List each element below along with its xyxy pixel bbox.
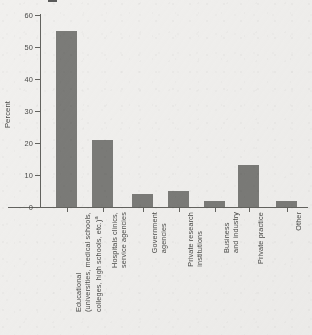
x-axis-tick [249, 207, 250, 212]
x-axis-tick [287, 207, 288, 212]
bar [132, 194, 153, 207]
x-axis-line [8, 207, 308, 208]
y-axis-tick [35, 175, 40, 176]
x-axis-label: Governmentagencies [151, 212, 168, 253]
x-axis-label: Private researchinstitutions [187, 212, 204, 267]
x-axis-label-line: Other [295, 212, 304, 231]
x-axis-tick [67, 207, 68, 212]
y-axis-tick-label: 60 [25, 11, 33, 20]
y-axis-tick-label: 20 [25, 139, 33, 148]
y-axis-tick-label: 0 [29, 203, 33, 212]
y-axis-tick-label: 30 [25, 107, 33, 116]
x-axis-tick [179, 207, 180, 212]
y-axis-title: Percent [3, 101, 12, 128]
y-axis-tick [35, 15, 40, 16]
x-axis-label-line: (universities, medical schools, [84, 212, 93, 312]
x-axis-label: Private practice [257, 212, 266, 264]
x-axis-label-line: institutions [196, 212, 205, 267]
bar [92, 140, 113, 207]
clipped-figure-mark [48, 0, 57, 2]
y-axis-tick [35, 207, 40, 208]
x-axis-label-line: and industry [232, 212, 241, 253]
y-axis-tick [35, 111, 40, 112]
x-axis-label-line: agencies [160, 212, 169, 253]
y-axis-tick [35, 143, 40, 144]
y-axis-tick [35, 47, 40, 48]
y-axis-tick-label: 40 [25, 75, 33, 84]
y-axis-tick-label: 50 [25, 43, 33, 52]
footnote-marker: a [93, 216, 99, 219]
bar [168, 191, 189, 207]
x-axis-label-line: service agencies [120, 212, 129, 268]
x-axis-label: Other [295, 212, 304, 231]
x-axis-label: Businessand industry [223, 212, 240, 253]
bar [238, 165, 259, 207]
bar-chart: 0102030405060 Percent Educational(univer… [0, 0, 312, 335]
y-axis-tick [35, 79, 40, 80]
x-axis-label: Hospitals clinics,service agencies [111, 212, 128, 268]
y-axis-line [40, 14, 41, 208]
x-axis-tick [215, 207, 216, 212]
y-axis-tick-label: 10 [25, 171, 33, 180]
bar [56, 31, 77, 207]
x-axis-tick [143, 207, 144, 212]
x-axis-label: Educational(universities, medical school… [75, 212, 104, 312]
x-axis-label-line: Private practice [257, 212, 266, 264]
x-axis-label-line: colleges, high schools, etc.)a [92, 212, 104, 312]
